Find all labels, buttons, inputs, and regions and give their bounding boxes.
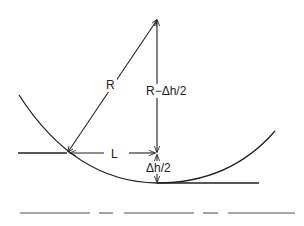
half-length-label: L [111, 147, 118, 161]
diagram-canvas: R R−Δh/2 L Δh/2 [0, 0, 304, 226]
vertical-label: R−Δh/2 [146, 84, 187, 98]
radius-label: R [106, 78, 115, 92]
sag-label: Δh/2 [146, 161, 171, 175]
